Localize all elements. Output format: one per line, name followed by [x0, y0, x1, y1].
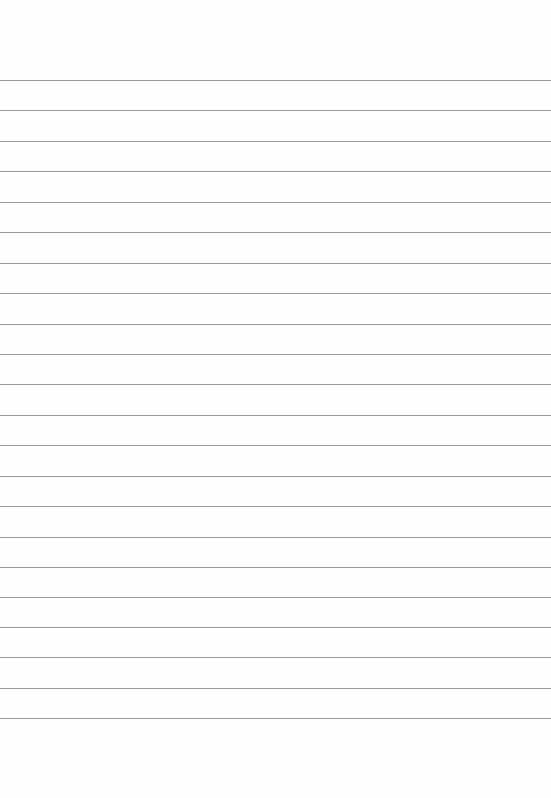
- ruled-line: [0, 324, 551, 325]
- ruled-line: [0, 506, 551, 507]
- ruled-line: [0, 354, 551, 355]
- ruled-line: [0, 384, 551, 385]
- ruled-line: [0, 567, 551, 568]
- ruled-line: [0, 597, 551, 598]
- ruled-line: [0, 141, 551, 142]
- ruled-line: [0, 232, 551, 233]
- ruled-line: [0, 171, 551, 172]
- ruled-line: [0, 415, 551, 416]
- ruled-line: [0, 657, 551, 658]
- ruled-paper-sheet: [0, 0, 551, 798]
- ruled-line: [0, 202, 551, 203]
- ruled-line: [0, 80, 551, 81]
- ruled-line: [0, 445, 551, 446]
- ruled-line: [0, 627, 551, 628]
- ruled-line: [0, 293, 551, 294]
- ruled-line: [0, 110, 551, 111]
- ruled-line: [0, 476, 551, 477]
- ruled-line: [0, 537, 551, 538]
- ruled-line: [0, 718, 551, 719]
- ruled-line: [0, 688, 551, 689]
- ruled-line: [0, 263, 551, 264]
